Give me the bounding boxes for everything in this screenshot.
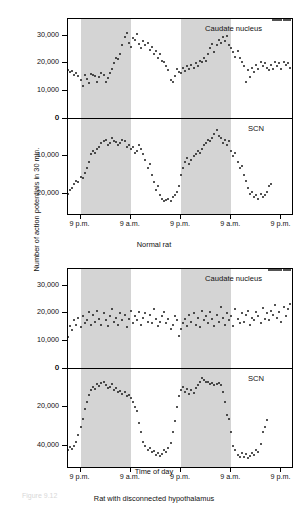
data-point (203, 379, 205, 381)
data-point (216, 314, 218, 316)
data-point (167, 447, 169, 449)
chart-disconnected-hypothalamus: 010,00020,00030,000020,00040,000Caudate … (0, 268, 308, 483)
data-point (82, 418, 84, 420)
data-point (67, 449, 69, 451)
data-point (234, 56, 236, 58)
data-point (268, 319, 270, 321)
data-point (140, 148, 142, 150)
data-point (253, 454, 255, 456)
data-point (111, 68, 113, 70)
data-point (147, 167, 149, 169)
y-axis-tick-label: 30,000 (0, 281, 59, 288)
data-point (239, 57, 241, 59)
data-point (218, 39, 220, 41)
data-point (86, 78, 88, 80)
data-point (159, 321, 161, 323)
data-point (274, 61, 276, 63)
panel-divider (68, 118, 292, 119)
data-point (257, 315, 259, 317)
data-point (172, 431, 174, 433)
figure: Number of action potentials in 30 min. 0… (0, 0, 308, 505)
data-point (155, 50, 157, 52)
data-point (247, 310, 249, 312)
data-point (270, 64, 272, 66)
data-point (180, 174, 182, 176)
data-point (266, 419, 268, 421)
data-point (264, 62, 266, 64)
data-point (266, 67, 268, 69)
data-point (138, 43, 140, 45)
y-axis-tick (62, 285, 67, 286)
data-point (153, 450, 155, 452)
data-point (176, 68, 178, 70)
data-point (243, 321, 245, 323)
data-point (167, 318, 169, 320)
data-point (251, 191, 253, 193)
data-point (124, 314, 126, 316)
data-point (75, 72, 77, 74)
data-point (155, 189, 157, 191)
data-point (289, 19, 291, 21)
data-point (260, 193, 262, 195)
data-point (251, 317, 253, 319)
data-point (272, 68, 274, 70)
data-point (163, 311, 165, 313)
data-point (149, 314, 151, 316)
data-point (262, 196, 264, 198)
y-axis-tick (62, 368, 67, 369)
data-point (255, 64, 257, 66)
data-point (80, 426, 82, 428)
data-point (201, 310, 203, 312)
data-point (86, 167, 88, 169)
data-point (260, 443, 262, 445)
data-point (199, 152, 201, 154)
data-point (161, 453, 163, 455)
data-point (257, 451, 259, 453)
data-point (234, 308, 236, 310)
data-point (287, 62, 289, 64)
data-point (142, 40, 144, 42)
y-axis-tick (62, 340, 67, 341)
y-axis-tick-label: 20,000 (0, 58, 59, 65)
data-point (69, 325, 71, 327)
data-point (260, 322, 262, 324)
data-point (174, 315, 176, 317)
data-point (155, 454, 157, 456)
data-point (280, 68, 282, 70)
data-point (182, 167, 184, 169)
data-point (115, 317, 117, 319)
data-point (249, 455, 251, 457)
data-point (67, 336, 69, 338)
data-point (262, 307, 264, 309)
data-point (130, 310, 132, 312)
data-point (147, 449, 149, 451)
data-point (140, 324, 142, 326)
data-point (224, 324, 226, 326)
panel-label-caudate-nucleus: Caudate nucleus (205, 24, 262, 33)
data-point (138, 422, 140, 424)
data-point (178, 185, 180, 187)
data-point (239, 322, 241, 324)
data-point (257, 68, 259, 70)
data-point (88, 161, 90, 163)
data-point (255, 194, 257, 196)
data-point (260, 61, 262, 63)
data-point (75, 324, 77, 326)
data-point (77, 434, 79, 436)
data-point (157, 452, 159, 454)
data-point (92, 314, 94, 316)
data-point (193, 67, 195, 69)
y-axis-tick-label: 10,000 (0, 151, 59, 158)
data-point (270, 310, 272, 312)
data-point (278, 311, 280, 313)
data-point (163, 61, 165, 63)
y-axis-tick (62, 62, 67, 63)
data-point (201, 148, 203, 150)
data-point (107, 144, 109, 146)
data-point (268, 69, 270, 71)
data-point (124, 391, 126, 393)
data-point (253, 319, 255, 321)
data-point (274, 304, 276, 306)
data-point (134, 406, 136, 408)
data-point (278, 62, 280, 64)
